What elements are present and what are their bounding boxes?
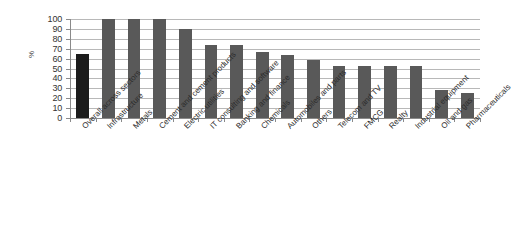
x-tick-label: FMCG <box>363 108 385 130</box>
x-tick-label: Telecom and TV <box>337 84 383 130</box>
x-tick-label: Realty <box>388 109 410 131</box>
x-tick-label: Pharmaceuticals <box>465 83 512 130</box>
x-tick-label: Others <box>311 108 334 131</box>
x-tick-label: Metals <box>132 108 154 130</box>
